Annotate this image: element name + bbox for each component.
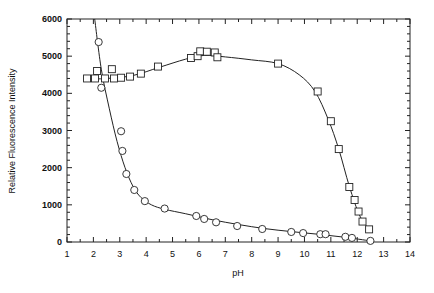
- square-marker: [101, 75, 108, 82]
- circle-marker: [348, 234, 355, 241]
- square-marker: [108, 66, 115, 73]
- circle-marker: [141, 198, 148, 205]
- y-tick-label: 3000: [42, 126, 62, 136]
- circle-marker: [131, 186, 138, 193]
- square-marker: [314, 88, 321, 95]
- y-tick-label: 6000: [42, 14, 62, 24]
- y-axis-label: Relative Fluorescence Intensity: [7, 68, 17, 194]
- square-marker: [118, 74, 125, 81]
- x-tick-label: 6: [196, 249, 201, 259]
- square-marker: [137, 70, 144, 77]
- x-tick-label: 4: [144, 249, 149, 259]
- x-tick-label: 12: [352, 249, 362, 259]
- square-marker: [188, 55, 195, 62]
- square-marker: [203, 48, 210, 55]
- circle-marker: [117, 128, 124, 135]
- y-tick-label: 1000: [42, 200, 62, 210]
- circle-marker: [212, 219, 219, 226]
- circle-marker: [98, 84, 105, 91]
- circles-fit-line: [95, 19, 371, 241]
- circle-marker: [193, 212, 200, 219]
- squares-fit-line: [85, 55, 370, 231]
- square-marker: [155, 63, 162, 70]
- x-tick-label: 9: [276, 249, 281, 259]
- x-axis-label: pH: [232, 268, 244, 278]
- square-marker: [91, 75, 98, 82]
- x-tick-label: 1: [64, 249, 69, 259]
- square-marker: [366, 226, 373, 233]
- x-tick-label: 14: [405, 249, 415, 259]
- circle-marker: [342, 233, 349, 240]
- circle-marker: [288, 228, 295, 235]
- x-tick-label: 2: [91, 249, 96, 259]
- circle-marker: [119, 147, 126, 154]
- circle-marker: [161, 205, 168, 212]
- square-marker: [127, 73, 134, 80]
- x-tick-label: 13: [379, 249, 389, 259]
- circle-marker: [300, 229, 307, 236]
- square-marker: [94, 68, 101, 75]
- circle-marker: [367, 237, 374, 244]
- circle-marker: [95, 38, 102, 45]
- square-marker: [84, 75, 91, 82]
- x-tick-label: 8: [249, 249, 254, 259]
- circle-marker: [234, 222, 241, 229]
- square-marker: [335, 146, 342, 153]
- fit-curves: [85, 19, 370, 241]
- square-marker: [327, 118, 334, 125]
- fluorescence-chart: 1234567891011121314010002000300040005000…: [0, 0, 434, 293]
- square-marker: [110, 75, 117, 82]
- y-tick-label: 4000: [42, 88, 62, 98]
- data-points: [84, 38, 374, 244]
- x-tick-label: 10: [299, 249, 309, 259]
- square-marker: [214, 54, 221, 61]
- y-tick-label: 0: [57, 237, 62, 247]
- circle-marker: [123, 170, 130, 177]
- circle-marker: [322, 231, 329, 238]
- square-marker: [197, 48, 204, 55]
- x-tick-label: 3: [117, 249, 122, 259]
- x-tick-label: 5: [170, 249, 175, 259]
- square-marker: [351, 197, 358, 204]
- square-marker: [355, 208, 362, 215]
- y-tick-label: 2000: [42, 163, 62, 173]
- y-tick-label: 5000: [42, 51, 62, 61]
- square-marker: [275, 60, 282, 67]
- x-tick-label: 11: [326, 249, 335, 259]
- circle-marker: [201, 215, 208, 222]
- square-marker: [359, 218, 366, 225]
- square-marker: [346, 183, 353, 190]
- x-tick-label: 7: [223, 249, 228, 259]
- circle-marker: [259, 225, 266, 232]
